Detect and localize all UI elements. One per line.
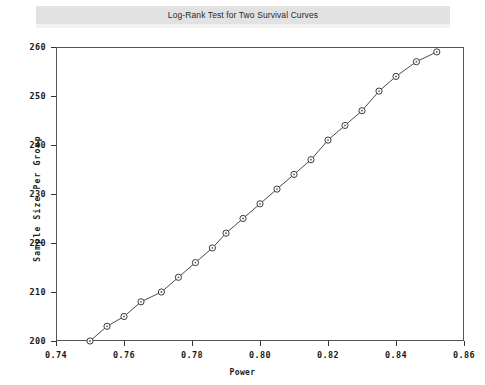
y-tick-mark (51, 194, 56, 195)
y-tick-mark (51, 292, 56, 293)
x-tick-label: 0.86 (441, 350, 485, 360)
x-tick-mark (124, 341, 125, 346)
chart-page: Log-Rank Test for Two Survival Curves 20… (0, 0, 485, 385)
x-tick-label: 0.76 (101, 350, 147, 360)
y-tick-label: 260 (12, 42, 46, 52)
x-tick-mark (192, 341, 193, 346)
x-tick-label: 0.74 (33, 350, 79, 360)
x-tick-mark (396, 341, 397, 346)
y-tick-mark (51, 96, 56, 97)
title-banner-shadow (36, 24, 450, 28)
y-tick-mark (51, 47, 56, 48)
x-tick-mark (328, 341, 329, 346)
x-tick-mark (56, 341, 57, 346)
x-tick-label: 0.84 (373, 350, 419, 360)
y-axis-title: Sample Size Per Group (33, 99, 42, 299)
y-tick-mark (51, 243, 56, 244)
y-tick-mark (51, 145, 56, 146)
page-title: Log-Rank Test for Two Survival Curves (36, 6, 450, 24)
x-tick-label: 0.78 (169, 350, 215, 360)
x-tick-label: 0.82 (305, 350, 351, 360)
x-tick-mark (464, 341, 465, 346)
x-tick-label: 0.80 (237, 350, 283, 360)
y-tick-label: 200 (12, 336, 46, 346)
plot-area (56, 47, 464, 341)
x-axis-title: Power (0, 368, 485, 377)
x-tick-mark (260, 341, 261, 346)
